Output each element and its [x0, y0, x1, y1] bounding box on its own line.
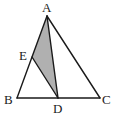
- label-c: C: [102, 92, 111, 107]
- label-e: E: [19, 48, 27, 63]
- label-b: B: [4, 92, 13, 107]
- geometry-diagram: A B C D E: [0, 0, 114, 120]
- shaded-triangle-aed: [32, 16, 58, 98]
- label-d: D: [53, 101, 62, 116]
- label-a: A: [42, 0, 52, 15]
